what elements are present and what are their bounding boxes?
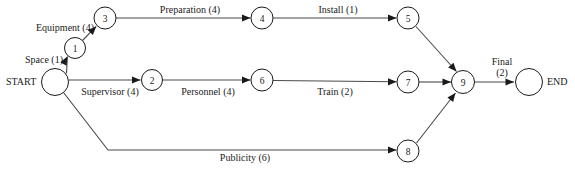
node-6[interactable]: 6 [251, 69, 273, 91]
arrowhead-install [388, 14, 397, 21]
network-diagram-canvas: 123456789 Space (1)Equipment (4)Preparat… [0, 0, 575, 172]
node-8-label: 8 [406, 147, 411, 157]
end-node-circle[interactable] [516, 69, 543, 96]
arrowhead-8-to-9 [447, 91, 458, 102]
start-label: START [6, 76, 36, 87]
node-1-label: 1 [73, 44, 78, 54]
edge-label-personnel: Personnel (4) [181, 86, 235, 98]
node-1[interactable]: 1 [65, 38, 86, 59]
arrowhead-7-to-9 [443, 78, 452, 85]
network-diagram-svg: 123456789 Space (1)Equipment (4)Preparat… [0, 0, 575, 172]
edge-train [273, 81, 397, 82]
arrowhead-personnel [242, 76, 251, 83]
arrowhead-train [388, 78, 397, 85]
start-node[interactable] [42, 69, 69, 96]
edge-label-publicity: Publicity (6) [220, 152, 270, 164]
edge-label-equipment: Equipment (4) [36, 22, 94, 34]
final-label: Final(2) [492, 56, 513, 79]
node-9[interactable]: 9 [452, 71, 475, 94]
node-7-label: 7 [406, 78, 411, 88]
node-2[interactable]: 2 [142, 70, 163, 91]
edge-label-preparation: Preparation (4) [160, 4, 220, 16]
final-label-line1: Final [492, 56, 513, 67]
node-3-label: 3 [103, 14, 108, 24]
edge-5-to-9 [416, 27, 457, 72]
arrowhead-preparation [242, 14, 251, 21]
arrowhead-supervisor [132, 76, 141, 83]
arrowheads-layer [60, 14, 514, 153]
edge-label-install: Install (1) [318, 4, 357, 16]
edges-layer [64, 18, 515, 150]
arrowhead-final [506, 78, 515, 85]
nodes-layer: 123456789 [65, 7, 475, 162]
arrowhead-publicity [388, 146, 397, 153]
node-5[interactable]: 5 [397, 7, 419, 29]
final-label-line2: (2) [496, 67, 508, 79]
edge-label-supervisor: Supervisor (4) [81, 86, 139, 98]
edge-label-train: Train (2) [317, 86, 352, 98]
edge-8-to-9 [417, 93, 456, 143]
end-label: END [547, 76, 568, 87]
node-4-label: 4 [260, 14, 265, 24]
edge-publicity [64, 93, 397, 151]
node-7[interactable]: 7 [397, 71, 419, 93]
node-3[interactable]: 3 [94, 7, 116, 29]
node-8[interactable]: 8 [397, 140, 419, 162]
node-4[interactable]: 4 [251, 7, 273, 29]
end-node[interactable] [516, 69, 543, 96]
edge-label-space: Space (1) [25, 54, 63, 66]
node-5-label: 5 [406, 14, 411, 24]
node-9-label: 9 [461, 78, 466, 88]
node-2-label: 2 [150, 76, 155, 86]
start-node-circle[interactable] [42, 69, 69, 96]
node-6-label: 6 [260, 76, 265, 86]
